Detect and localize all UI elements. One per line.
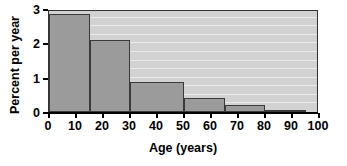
x-tick-mark (75, 113, 77, 118)
x-tick-label: 90 (276, 120, 306, 133)
x-tick-mark (291, 113, 293, 118)
y-axis-title: Percent per year (4, 6, 26, 124)
x-tick-mark (183, 113, 185, 118)
x-tick-label: 40 (141, 120, 171, 133)
plot-area (48, 10, 318, 113)
x-tick-label: 70 (222, 120, 252, 133)
x-tick-label: 60 (195, 120, 225, 133)
y-tick-label: 3 (24, 4, 40, 17)
x-tick-mark (129, 113, 131, 118)
x-tick-label: 0 (33, 120, 63, 133)
x-tick-mark (156, 113, 158, 118)
histogram-bar (49, 14, 90, 112)
x-tick-label: 50 (168, 120, 198, 133)
x-tick-mark (102, 113, 104, 118)
y-axis-tick-labels: 0123 (24, 0, 40, 166)
x-tick-label: 20 (87, 120, 117, 133)
y-tick-label: 2 (24, 38, 40, 51)
histogram-bar (90, 40, 131, 112)
histogram-bar (184, 98, 225, 112)
y-tick-label: 0 (24, 107, 40, 120)
x-axis-title: Age (years) (48, 141, 318, 155)
x-tick-mark (210, 113, 212, 118)
x-tick-label: 100 (303, 120, 333, 133)
x-tick-mark (48, 113, 50, 118)
x-tick-label: 30 (114, 120, 144, 133)
x-tick-label: 80 (249, 120, 279, 133)
y-tick-label: 1 (24, 73, 40, 86)
x-tick-mark (318, 113, 320, 118)
x-tick-label: 10 (60, 120, 90, 133)
x-tick-mark (264, 113, 266, 118)
x-tick-mark (237, 113, 239, 118)
histogram-figure: Percent per year 0123 010203040506070809… (0, 0, 347, 166)
x-axis-tick-labels: 0102030405060708090100 (48, 120, 318, 136)
histogram-bar (130, 82, 184, 112)
